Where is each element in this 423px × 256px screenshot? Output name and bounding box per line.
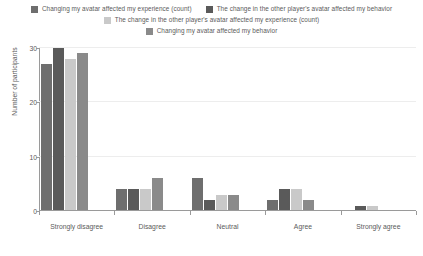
x-tick-mark [190,211,191,215]
x-tick-mark [416,211,417,215]
x-tick-label: Strongly agree [341,223,416,230]
y-tick-label: 10 [3,153,37,160]
bar-group-bars [341,48,416,211]
bar[interactable] [65,59,76,211]
bar-group-bars [114,48,189,211]
y-axis-ticks: 0102030 [0,0,37,256]
bar-group [39,48,114,211]
y-axis-title: Number of participants [11,22,18,142]
legend-swatch-icon [206,6,213,13]
bar[interactable] [41,64,52,211]
bar-group [190,48,265,211]
bar-group [114,48,189,211]
legend-item[interactable]: The change in the other player's avatar … [206,4,392,14]
y-tick-label: 30 [3,45,37,52]
x-tick-mark [265,211,266,215]
bar[interactable] [77,53,88,211]
bar[interactable] [279,189,290,211]
legend-label: The change in the other player's avatar … [115,15,320,25]
legend-swatch-icon [104,17,111,24]
legend-item[interactable]: The change in the other player's avatar … [104,15,320,25]
chart-legend: Changing my avatar affected my experienc… [0,4,423,37]
bar[interactable] [192,178,203,211]
x-tick-mark [39,211,40,215]
legend-row: The change in the other player's avatar … [0,15,423,25]
legend-row: Changing my avatar affected my behavior [0,26,423,36]
x-tick-mark [341,211,342,215]
bar[interactable] [128,189,139,211]
bar[interactable] [116,189,127,211]
x-axis-labels: Strongly disagreeDisagreeNeutralAgreeStr… [39,223,416,230]
x-tick-label: Strongly disagree [39,223,114,230]
legend-label: Changing my avatar affected my experienc… [42,4,192,14]
bar-chart: Changing my avatar affected my experienc… [0,0,423,256]
y-tick-label: 0 [3,208,37,215]
bar-group [341,48,416,211]
legend-row: Changing my avatar affected my experienc… [0,4,423,14]
x-tick-label: Disagree [114,223,189,230]
x-tick-label: Agree [265,223,340,230]
x-tick-mark [114,211,115,215]
legend-label: The change in the other player's avatar … [217,4,392,14]
bar-group-bars [265,48,340,211]
bar-group-bars [190,48,265,211]
bar[interactable] [53,48,64,211]
x-tick-label: Neutral [190,223,265,230]
legend-swatch-icon [146,28,153,35]
bar[interactable] [216,195,227,211]
bar-groups [39,48,416,211]
bar-group [265,48,340,211]
bar[interactable] [291,189,302,211]
plot-area [39,48,416,211]
bar[interactable] [152,178,163,211]
y-tick-label: 20 [3,99,37,106]
bar[interactable] [228,195,239,211]
bar[interactable] [140,189,151,211]
bar-group-bars [39,48,114,211]
x-axis-ticks [39,211,416,216]
legend-item[interactable]: Changing my avatar affected my experienc… [31,4,192,14]
legend-label: Changing my avatar affected my behavior [157,26,278,36]
legend-item[interactable]: Changing my avatar affected my behavior [146,26,278,36]
